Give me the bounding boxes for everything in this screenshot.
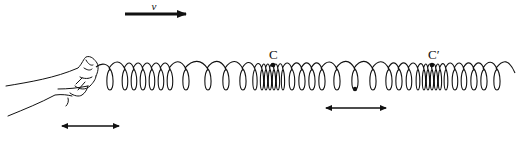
compression-label-c-prime: C′ <box>428 48 440 61</box>
velocity-label: v <box>152 1 157 12</box>
hand-icon <box>6 57 98 116</box>
diagram-canvas <box>0 0 525 143</box>
spring-wave-diagram: v C C′ <box>0 0 525 143</box>
spring-coil <box>96 61 515 90</box>
compression-label-c: C <box>269 48 278 61</box>
oscillation-arrows <box>62 108 386 126</box>
particle-dot <box>353 87 357 91</box>
